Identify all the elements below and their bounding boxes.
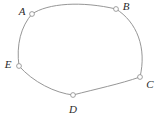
vertex-marker-e bbox=[17, 64, 22, 69]
vertex-label-a: A bbox=[18, 5, 26, 17]
vertex-marker-group bbox=[17, 7, 143, 98]
vertex-label-d: D bbox=[68, 103, 77, 115]
vertex-label-b: B bbox=[123, 0, 130, 12]
curve-figure: ABCDE bbox=[0, 0, 161, 120]
curve-edge-c-d bbox=[73, 77, 140, 95]
curve-edge-a-b bbox=[32, 4, 116, 14]
vertex-marker-b bbox=[114, 7, 119, 12]
vertex-marker-d bbox=[71, 93, 76, 98]
curve-edge-e-a bbox=[18, 14, 32, 66]
vertex-marker-a bbox=[30, 12, 35, 17]
vertex-marker-c bbox=[138, 75, 143, 80]
curve-edge-b-c bbox=[116, 9, 142, 77]
vertex-label-e: E bbox=[4, 58, 12, 70]
vertex-label-c: C bbox=[146, 78, 154, 90]
curve-edge-group bbox=[18, 4, 142, 95]
vertex-label-group: ABCDE bbox=[4, 0, 155, 115]
curve-edge-d-e bbox=[19, 66, 73, 95]
figure-canvas: ABCDE bbox=[0, 0, 161, 120]
